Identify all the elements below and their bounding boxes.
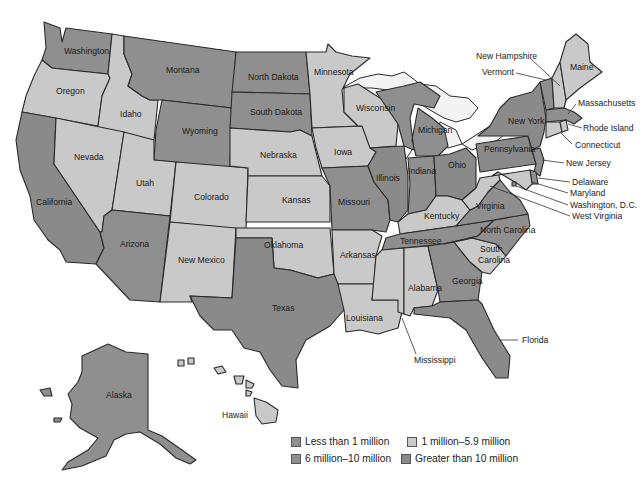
- legend-row-2: 6 million–10 million Greater than 10 mil…: [291, 453, 621, 464]
- state-ohio[interactable]: [434, 148, 476, 200]
- label-georgia: Georgia: [452, 276, 483, 286]
- label-new-mexico: New Mexico: [178, 255, 225, 265]
- label-kansas: Kansas: [282, 195, 311, 205]
- label-south-carolina-1: South: [480, 244, 503, 254]
- legend-item-6m-10m: 6 million–10 million: [291, 453, 391, 464]
- legend-swatch-6m-10m: [291, 454, 301, 464]
- label-tennessee: Tennessee: [400, 236, 442, 246]
- label-oregon: Oregon: [56, 86, 85, 96]
- label-washington-dc: Washington, D.C.: [570, 200, 637, 210]
- label-nebraska: Nebraska: [260, 150, 297, 160]
- state-rhode-island[interactable]: [560, 120, 568, 132]
- label-washington: Washington: [64, 46, 109, 56]
- label-pennsylvania: Pennsylvania: [484, 144, 535, 154]
- label-south-dakota: South Dakota: [250, 107, 302, 117]
- label-minnesota: Minnesota: [314, 67, 354, 77]
- label-arizona: Arizona: [120, 239, 149, 249]
- label-maryland: Maryland: [570, 188, 606, 198]
- legend-item-greater-than-10m: Greater than 10 million: [401, 453, 518, 464]
- state-hawaii[interactable]: [254, 398, 278, 424]
- legend-label-1m-5-9m: 1 million–5.9 million: [421, 436, 510, 447]
- legend-label-less-than-1m: Less than 1 million: [305, 436, 389, 447]
- legend-label-6m-10m: 6 million–10 million: [305, 453, 391, 464]
- label-indiana: Indiana: [408, 166, 436, 176]
- label-virginia: Virginia: [476, 201, 505, 211]
- label-vermont: Vermont: [482, 67, 515, 77]
- label-idaho: Idaho: [120, 109, 142, 119]
- label-iowa: Iowa: [334, 147, 352, 157]
- label-maine: Maine: [570, 62, 594, 72]
- label-north-carolina: North Carolina: [480, 225, 536, 235]
- label-utah: Utah: [136, 178, 154, 188]
- label-north-dakota: North Dakota: [248, 72, 299, 82]
- label-colorado: Colorado: [194, 192, 229, 202]
- legend-item-less-than-1m: Less than 1 million: [291, 436, 389, 447]
- label-california: California: [36, 197, 73, 207]
- label-new-jersey: New Jersey: [566, 158, 612, 168]
- state-arizona[interactable]: [96, 210, 170, 302]
- state-washington-dc[interactable]: [512, 182, 516, 186]
- label-rhode-island: Rhode Island: [583, 123, 634, 133]
- label-illinois: Illinois: [376, 173, 400, 183]
- label-kentucky: Kentucky: [424, 211, 460, 221]
- label-mississippi: Mississippi: [414, 355, 456, 365]
- legend-item-1m-5-9m: 1 million–5.9 million: [407, 436, 510, 447]
- label-florida: Florida: [522, 335, 548, 345]
- label-hawaii: Hawaii: [222, 410, 248, 420]
- hawaii-island: [178, 358, 254, 396]
- state-alaska[interactable]: [62, 344, 196, 470]
- label-alabama: Alabama: [408, 283, 442, 293]
- label-delaware: Delaware: [572, 177, 609, 187]
- label-michigan: Michigan: [418, 125, 453, 135]
- alaska-island: [40, 388, 62, 422]
- label-new-york: New York: [508, 116, 545, 126]
- label-new-hampshire: New Hampshire: [476, 51, 537, 61]
- legend-label-greater-than-10m: Greater than 10 million: [415, 453, 518, 464]
- label-nevada: Nevada: [74, 152, 104, 162]
- legend-row-1: Less than 1 million 1 million–5.9 millio…: [291, 436, 621, 447]
- state-florida[interactable]: [414, 300, 510, 378]
- label-montana: Montana: [166, 65, 200, 75]
- label-ohio: Ohio: [448, 160, 466, 170]
- label-louisiana: Louisiana: [346, 313, 383, 323]
- legend: Less than 1 million 1 million–5.9 millio…: [291, 436, 621, 470]
- label-west-virginia: West Virginia: [572, 211, 623, 221]
- label-massachusetts: Massachusetts: [578, 98, 635, 108]
- label-wyoming: Wyoming: [182, 126, 218, 136]
- label-connecticut: Connecticut: [575, 140, 621, 150]
- state-connecticut[interactable]: [546, 122, 562, 138]
- label-south-carolina-2: Carolina: [478, 255, 510, 265]
- label-texas: Texas: [272, 303, 294, 313]
- label-oklahoma: Oklahoma: [264, 240, 303, 250]
- legend-swatch-greater-than-10m: [401, 454, 411, 464]
- us-population-map: Washington Oregon California Idaho Nevad…: [0, 0, 644, 499]
- legend-swatch-1m-5-9m: [407, 437, 417, 447]
- label-missouri: Missouri: [338, 197, 370, 207]
- label-wisconsin: Wisconsin: [356, 103, 395, 113]
- label-alaska: Alaska: [106, 390, 132, 400]
- legend-swatch-less-than-1m: [291, 437, 301, 447]
- label-arkansas: Arkansas: [340, 250, 376, 260]
